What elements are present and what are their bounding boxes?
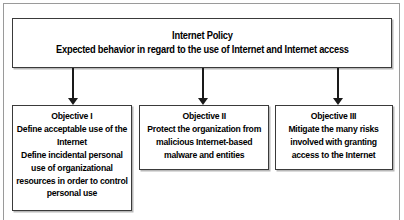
node-objective-3: Objective III Mitigate the many risks in…	[275, 105, 393, 170]
diagram-canvas: Internet Policy Expected behavior in reg…	[0, 0, 404, 220]
arrow-to-objective-2	[198, 68, 209, 105]
arrow-to-objective-1	[68, 68, 79, 105]
node-objective-3-line-3: involved with granting	[289, 136, 379, 149]
down-arrow-icon	[198, 98, 208, 105]
node-objective-1-line-7: personal use	[16, 187, 127, 200]
node-objective-2-line-2: Protect the organization from	[147, 123, 261, 136]
arrow-shaft	[337, 68, 339, 98]
node-objective-3-text: Objective III Mitigate the many risks in…	[282, 110, 385, 162]
node-objective-3-line-4: access to the Internet	[289, 149, 379, 162]
node-objective-1: Objective I Define acceptable use of the…	[12, 105, 132, 211]
node-objective-3-line-2: Mitigate the many risks	[289, 123, 379, 136]
node-objective-1-text: Objective I Define acceptable use of the…	[12, 110, 132, 200]
node-objective-3-line-1: Objective III	[289, 110, 379, 123]
node-objective-2-text: Objective II Protect the organization fr…	[140, 110, 268, 162]
node-internet-policy-line-1: Internet Policy	[56, 29, 349, 43]
arrow-to-objective-3	[333, 68, 344, 105]
node-objective-2-line-1: Objective II	[147, 110, 261, 123]
node-objective-1-line-1: Objective I	[16, 110, 127, 123]
node-internet-policy: Internet Policy Expected behavior in reg…	[12, 18, 392, 68]
down-arrow-icon	[333, 98, 343, 105]
arrow-shaft	[202, 68, 204, 98]
node-objective-1-line-5: use of organizational	[16, 162, 127, 175]
node-objective-1-line-3: Internet	[16, 136, 127, 149]
node-objective-1-line-6: resources in order to control	[16, 175, 127, 188]
node-objective-2-line-4: malware and entities	[147, 149, 261, 162]
node-internet-policy-line-2: Expected behavior in regard to the use o…	[56, 43, 349, 57]
down-arrow-icon	[68, 98, 78, 105]
node-internet-policy-text: Internet Policy Expected behavior in reg…	[42, 29, 363, 57]
node-objective-1-line-2: Define acceptable use of the	[16, 123, 127, 136]
node-objective-1-line-4: Define incidental personal	[16, 149, 127, 162]
arrow-shaft	[72, 68, 74, 98]
node-objective-2: Objective II Protect the organization fr…	[139, 105, 269, 170]
node-objective-2-line-3: malicious Internet-based	[147, 136, 261, 149]
